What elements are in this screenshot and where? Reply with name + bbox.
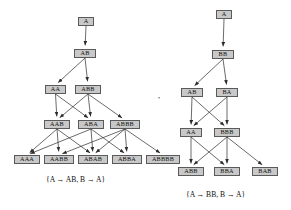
left-tree-caption: {A → AB, B → A} <box>46 175 105 184</box>
tree-edge <box>88 94 91 116</box>
tree-node: ABA <box>78 120 104 129</box>
tree-edge <box>227 137 262 165</box>
tree-edge <box>125 129 127 151</box>
tree-edge <box>60 94 88 118</box>
tree-edge <box>88 94 122 118</box>
tree-edge <box>62 129 125 154</box>
tree-edge <box>194 137 227 165</box>
tree-edge <box>30 129 57 153</box>
tree-edge <box>56 94 57 116</box>
tree-node: ABAB <box>78 155 108 164</box>
tree-node: A <box>78 17 94 26</box>
tree-node: AA <box>45 85 66 94</box>
tree-node: ABB <box>178 167 204 176</box>
tree-node: BAB <box>252 167 278 176</box>
tree-edge <box>223 19 224 46</box>
tree-edge <box>191 137 224 165</box>
tree-edge <box>192 97 224 126</box>
tree-edge <box>195 59 223 86</box>
tree-node: AA <box>180 128 202 137</box>
tree-edge <box>56 94 89 118</box>
tree-node: AB <box>74 49 96 58</box>
tree-node: A <box>216 10 232 19</box>
separator-comma: , <box>158 91 160 100</box>
tree-edge <box>85 26 86 45</box>
tree-node: ABB <box>75 85 101 94</box>
tree-node: AB <box>181 88 203 97</box>
tree-edge <box>57 129 59 151</box>
tree-edge <box>125 129 160 153</box>
tree-edge <box>223 59 227 84</box>
tree-node: BB <box>212 50 234 59</box>
tree-edge <box>57 129 90 153</box>
tree-edge <box>194 97 227 126</box>
tree-edge <box>91 129 124 153</box>
tree-node: ABBBB <box>146 155 180 164</box>
tree-node: BBA <box>214 167 240 176</box>
tree-edge <box>91 129 93 151</box>
tree-edge <box>58 58 85 83</box>
tree-node: ABBA <box>112 155 142 164</box>
tree-edge <box>96 129 125 153</box>
tree-edges-layer <box>0 0 291 210</box>
tree-edge <box>30 129 91 154</box>
right-tree-caption: {A → BB, B → A} <box>186 190 245 199</box>
tree-edge <box>191 97 192 124</box>
tree-node: AABB <box>44 155 74 164</box>
derivation-trees-figure: AABAAABBAABABAABBBAAAAABBABABABBAABBBBAB… <box>0 0 291 210</box>
tree-node: ABBB <box>110 120 140 129</box>
tree-node: BBB <box>214 128 240 137</box>
tree-node: AAB <box>44 120 70 129</box>
tree-edge <box>85 58 88 81</box>
tree-node: AAA <box>14 155 40 164</box>
tree-node: BA <box>216 88 238 97</box>
